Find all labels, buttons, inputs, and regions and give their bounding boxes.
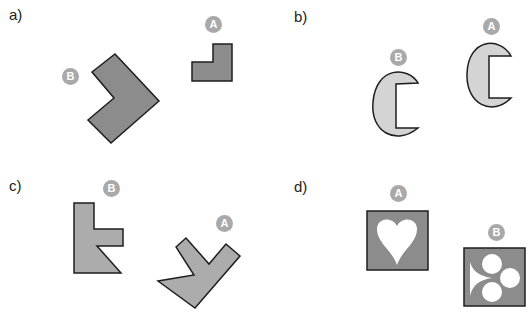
shape-a-B-chevron (88, 54, 159, 143)
panel-label-d: d) (294, 178, 307, 195)
shape-b-A-crescent (467, 43, 511, 107)
panel-label-b: b) (294, 8, 307, 25)
shape-a-A-l-shape (192, 44, 232, 81)
badge-b-A: A (483, 18, 500, 35)
badge-a-B: B (62, 68, 79, 85)
shape-b-B-crescent (373, 72, 418, 136)
shape-c-B-polygon (74, 203, 123, 273)
figure-canvas (0, 0, 529, 316)
badge-d-B: B (488, 224, 505, 241)
badge-d-A: A (390, 185, 407, 202)
badge-c-A: A (216, 215, 233, 232)
panel-label-c: c) (9, 177, 22, 194)
badge-c-B: B (103, 180, 120, 197)
badge-a-A: A (205, 16, 222, 33)
badge-b-B: B (390, 49, 407, 66)
shape-c-A-polygon (158, 238, 240, 308)
panel-label-a: a) (9, 6, 22, 23)
